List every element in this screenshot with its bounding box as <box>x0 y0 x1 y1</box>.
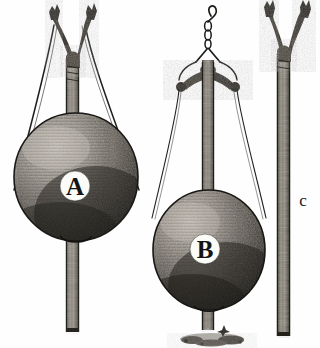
object-c-label-text: c <box>299 191 307 210</box>
object-a-label: A <box>60 171 90 201</box>
engraving-figure: A <box>0 0 320 348</box>
object-a-label-text: A <box>66 173 84 200</box>
object-b-label: B <box>190 234 220 264</box>
figure-canvas: A <box>0 0 320 348</box>
object-b-label-text: B <box>197 236 214 263</box>
